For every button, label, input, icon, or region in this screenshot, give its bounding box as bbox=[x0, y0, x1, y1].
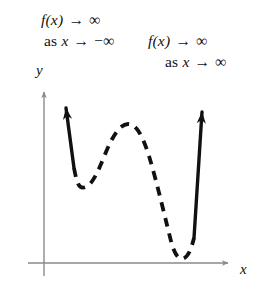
left-limit-value: ∞ bbox=[89, 11, 100, 28]
left-arrow-icon-2: → bbox=[73, 32, 91, 49]
right-end-behavior-label: f(x) → ∞ as x → ∞ bbox=[148, 30, 227, 72]
right-as-text: as bbox=[165, 53, 178, 70]
end-behavior-figure: f(x) → ∞ as x → −∞ f(x) → ∞ as x → ∞ y x bbox=[0, 0, 258, 302]
left-as-text: as bbox=[44, 32, 57, 49]
left-limit-approach: −∞ bbox=[94, 32, 114, 49]
left-variable-text: x bbox=[61, 32, 68, 49]
left-arrow-icon: → bbox=[67, 11, 85, 28]
left-label-line-two: as x → −∞ bbox=[41, 30, 115, 51]
right-solid-branch bbox=[194, 112, 202, 238]
y-axis-label: y bbox=[36, 62, 43, 79]
right-limit-value: ∞ bbox=[196, 32, 207, 49]
dashed-curve-interior bbox=[74, 124, 194, 259]
left-solid-branch bbox=[66, 108, 74, 168]
right-label-line-two: as x → ∞ bbox=[148, 51, 227, 72]
left-function-text: f(x) bbox=[41, 11, 63, 28]
right-function-text: f(x) bbox=[148, 32, 170, 49]
right-label-line-one: f(x) → ∞ bbox=[148, 30, 227, 51]
right-variable-text: x bbox=[182, 53, 189, 70]
left-end-behavior-label: f(x) → ∞ as x → −∞ bbox=[41, 9, 115, 51]
right-limit-approach: ∞ bbox=[215, 53, 226, 70]
right-arrow-icon-2: → bbox=[194, 53, 212, 70]
left-label-line-one: f(x) → ∞ bbox=[41, 9, 115, 30]
x-axis-label: x bbox=[240, 261, 247, 278]
right-arrow-icon: → bbox=[174, 32, 192, 49]
